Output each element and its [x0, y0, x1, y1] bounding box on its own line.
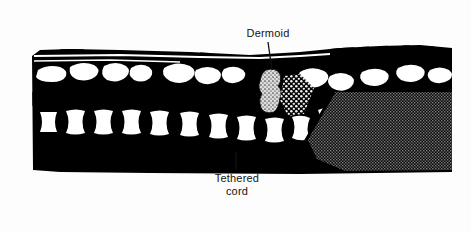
tethered-cord-label-line1: Tethered [215, 172, 259, 184]
tethered-cord-label-line2: cord [226, 185, 248, 197]
specimen-body [28, 41, 458, 178]
sacral-mass [306, 92, 452, 171]
figure-stage: Dermoid Tethered cord [0, 0, 471, 233]
dermoid-mass [259, 69, 281, 113]
dermoid-label: Dermoid [233, 27, 303, 40]
tethered-cord-label: Tethered cord [200, 172, 274, 198]
figure-page: Dermoid Tethered cord [0, 0, 471, 233]
